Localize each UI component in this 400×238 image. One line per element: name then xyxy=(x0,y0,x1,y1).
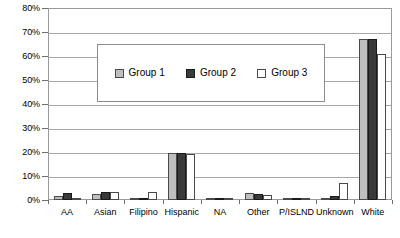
bar-group xyxy=(277,8,315,200)
y-axis-tick-label: 80% xyxy=(22,4,40,13)
legend-entry: Group 1 xyxy=(115,68,165,78)
legend-entry: Group 3 xyxy=(257,68,307,78)
x-axis-category-label: Other xyxy=(247,207,270,217)
bar-group xyxy=(354,8,392,200)
legend-entry: Group 2 xyxy=(186,68,236,78)
x-axis-tick-mark xyxy=(316,200,317,204)
bar xyxy=(101,192,110,200)
bar-chart: 0%10%20%30%40%50%60%70%80% AAAsianFilipi… xyxy=(0,0,400,238)
x-axis-category-label: Filipino xyxy=(129,207,158,217)
bar xyxy=(63,193,72,200)
y-axis-tick-label: 40% xyxy=(22,100,40,109)
bar-group xyxy=(86,8,124,200)
bar xyxy=(168,153,177,200)
bar-group xyxy=(48,8,86,200)
bar-group xyxy=(124,8,162,200)
x-axis-tick-mark xyxy=(239,200,240,204)
x-axis-category-label: Hispanic xyxy=(165,207,200,217)
y-axis-tick-label: 20% xyxy=(22,148,40,157)
bar xyxy=(186,154,195,200)
bar xyxy=(110,192,119,200)
x-axis-tick-mark xyxy=(354,200,355,204)
bar-group xyxy=(163,8,201,200)
bar xyxy=(177,153,186,200)
bar xyxy=(377,54,386,200)
legend-label: Group 3 xyxy=(271,68,307,78)
bar-group xyxy=(239,8,277,200)
bar-group xyxy=(316,8,354,200)
bar xyxy=(339,183,348,200)
x-axis-tick-mark xyxy=(124,200,125,204)
x-axis-category-label: White xyxy=(361,207,384,217)
x-axis-tick-mark xyxy=(48,200,49,204)
bar xyxy=(245,193,254,200)
x-axis-category-label: AA xyxy=(61,207,73,217)
legend-swatch-icon xyxy=(115,69,124,78)
x-axis-tick-mark xyxy=(392,200,393,204)
x-axis-tick-mark xyxy=(201,200,202,204)
legend-label: Group 1 xyxy=(129,68,165,78)
x-axis-category-label: P/ISLND xyxy=(279,207,314,217)
legend-swatch-icon xyxy=(257,69,266,78)
x-axis-tick-mark xyxy=(163,200,164,204)
y-axis: 0%10%20%30%40%50%60%70%80% xyxy=(0,0,48,208)
bars-layer xyxy=(48,8,392,200)
y-axis-tick-label: 0% xyxy=(27,196,40,205)
y-axis-tick-label: 70% xyxy=(22,28,40,37)
x-axis-category-label: NA xyxy=(214,207,227,217)
bar xyxy=(359,39,368,200)
legend-swatch-icon xyxy=(186,69,195,78)
x-axis-category-label: Unknown xyxy=(316,207,354,217)
x-axis-tick-mark xyxy=(86,200,87,204)
x-axis: AAAsianFilipinoHispanicNAOtherP/ISLNDUnk… xyxy=(48,200,392,238)
legend-label: Group 2 xyxy=(200,68,236,78)
y-axis-tick-label: 60% xyxy=(22,52,40,61)
chart-legend: Group 1Group 2Group 3 xyxy=(97,44,325,102)
bar xyxy=(148,192,157,200)
x-axis-tick-mark xyxy=(277,200,278,204)
bar xyxy=(368,39,377,200)
y-axis-tick-label: 30% xyxy=(22,124,40,133)
bar-group xyxy=(201,8,239,200)
y-axis-tick-label: 10% xyxy=(22,172,40,181)
x-axis-category-label: Asian xyxy=(94,207,117,217)
y-axis-tick-label: 50% xyxy=(22,76,40,85)
